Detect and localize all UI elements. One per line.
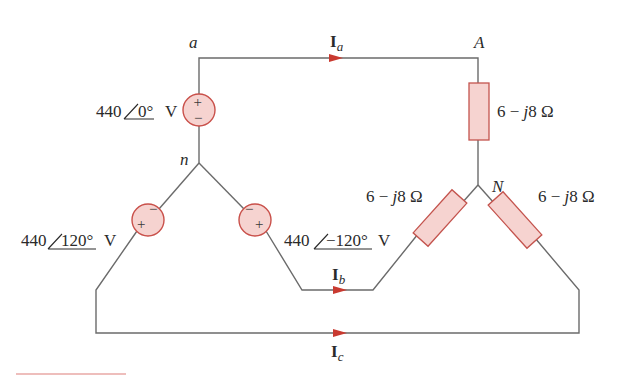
node-n-label: n (180, 150, 189, 169)
load-impedance-C (488, 192, 542, 248)
node-a-label: a (189, 33, 198, 52)
load-C-label: 6 − j8 Ω (538, 187, 595, 206)
plus-sign: + (137, 216, 145, 232)
svg-text:−120°: −120° (326, 231, 368, 250)
node-N-label: N (491, 177, 505, 196)
source-a-label: 440 0° V (96, 102, 178, 121)
voltage-source-b: − + (239, 201, 271, 236)
minus-sign: − (245, 201, 253, 217)
wire-n-to-source-b (199, 163, 244, 209)
current-arrow-a-icon (329, 54, 343, 62)
plus-sign: + (194, 94, 202, 110)
svg-text:V: V (378, 231, 391, 250)
svg-text:440: 440 (21, 231, 47, 250)
current-Ib-label: Ib (332, 265, 346, 287)
current-arrow-c-icon (333, 329, 347, 337)
source-c-label: 440 120° V (21, 231, 117, 250)
svg-text:120°: 120° (61, 231, 93, 250)
svg-text:440: 440 (96, 102, 122, 121)
voltage-source-a: + − (183, 94, 215, 126)
load-A-label: 6 − j8 Ω (497, 102, 554, 121)
load-impedance-A (469, 83, 489, 140)
node-A-label: A (473, 33, 485, 52)
source-b-label: 440 −120° V (284, 231, 391, 250)
circuit-diagram: + − 440 0° V − + 440 120° V − + 440 −120… (0, 0, 620, 383)
minus-sign: − (194, 110, 202, 126)
svg-text:V: V (165, 102, 178, 121)
wire-n-to-source-c (159, 163, 199, 209)
svg-text:440: 440 (284, 231, 310, 250)
plus-sign: + (255, 216, 263, 232)
minus-sign: − (149, 201, 157, 217)
svg-text:0°: 0° (138, 102, 153, 121)
voltage-source-c: − + (132, 201, 164, 236)
current-Ia-label: Ia (330, 32, 344, 54)
svg-text:V: V (104, 231, 117, 250)
current-Ic-label: Ic (331, 342, 344, 364)
current-arrow-b-icon (333, 286, 347, 294)
wire-line-a (199, 58, 478, 94)
load-B-label: 6 − j8 Ω (366, 187, 423, 206)
